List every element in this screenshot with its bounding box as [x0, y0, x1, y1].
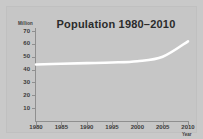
- y-tick-mark: [32, 44, 35, 45]
- y-tick-label: 10: [16, 105, 30, 111]
- x-tick-mark: [112, 122, 113, 125]
- y-tick-label: 70: [16, 28, 30, 34]
- x-tick-mark: [163, 122, 164, 125]
- y-tick-label: 20: [16, 92, 30, 98]
- chart-canvas: Population 1980–2010 Million Year 706050…: [6, 6, 197, 133]
- chart-figure: Population 1980–2010 Million Year 706050…: [0, 0, 203, 139]
- x-tick-mark: [87, 122, 88, 125]
- x-tick-mark: [137, 122, 138, 125]
- chart-title: Population 1980–2010: [36, 18, 196, 30]
- y-tick-mark: [32, 95, 35, 96]
- x-tick-mark: [188, 122, 189, 125]
- x-tick-mark: [36, 122, 37, 125]
- y-axis-line: [35, 28, 36, 122]
- y-tick-mark: [32, 57, 35, 58]
- y-axis-title: Million: [18, 21, 33, 26]
- y-tick-mark: [32, 70, 35, 71]
- y-tick-mark: [32, 31, 35, 32]
- y-tick-label: 30: [16, 79, 30, 85]
- y-tick-label: 60: [16, 40, 30, 46]
- y-tick-label: 50: [16, 53, 30, 59]
- x-tick-mark: [61, 122, 62, 125]
- x-axis-title: Year: [182, 132, 192, 137]
- y-tick-label: 40: [16, 66, 30, 72]
- y-tick-mark: [32, 82, 35, 83]
- y-tick-mark: [32, 108, 35, 109]
